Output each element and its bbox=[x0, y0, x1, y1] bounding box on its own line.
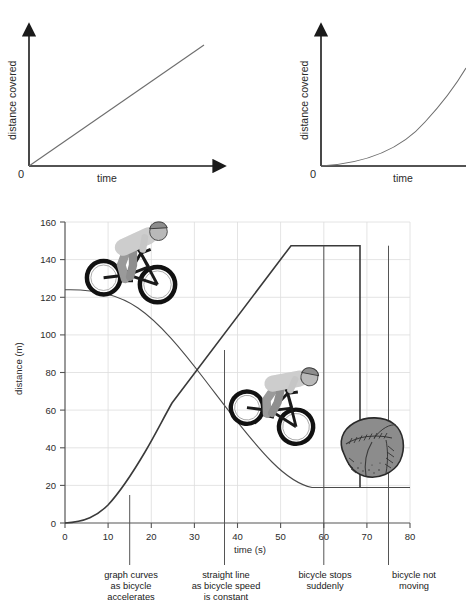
x-tick-labels: 0 10 20 30 40 50 60 70 80 bbox=[62, 531, 415, 542]
data-line bbox=[29, 45, 204, 166]
annotation-constant-speed: straight line as bicycle speed is consta… bbox=[192, 570, 261, 601]
chart-constant-speed: distance covered time 0 bbox=[0, 0, 240, 198]
x-axis-label: time bbox=[97, 172, 117, 184]
y-axis-label: distance covered bbox=[6, 60, 18, 140]
origin-label: 0 bbox=[18, 168, 24, 180]
bicycle-journey-svg: 0 20 40 60 80 100 120 140 160 distance (… bbox=[0, 200, 466, 601]
x-tick-40: 40 bbox=[232, 531, 243, 542]
y-tick-0: 0 bbox=[51, 518, 56, 529]
x-tick-50: 50 bbox=[275, 531, 286, 542]
y-axis-label: distance covered bbox=[298, 60, 310, 140]
x-axis-label: time bbox=[393, 172, 413, 184]
y-tick-100: 100 bbox=[40, 329, 56, 340]
x-tick-70: 70 bbox=[362, 531, 373, 542]
chart-bicycle-journey: 0 20 40 60 80 100 120 140 160 distance (… bbox=[0, 200, 466, 601]
y-tick-160: 160 bbox=[40, 217, 56, 228]
chart-accelerating: distance covered time 0 bbox=[290, 0, 466, 198]
x-tick-20: 20 bbox=[146, 531, 157, 542]
y-tick-60: 60 bbox=[45, 405, 56, 416]
data-curve bbox=[321, 68, 466, 166]
y-tick-marks bbox=[60, 222, 65, 523]
x-axis-title: time (s) bbox=[234, 544, 266, 555]
accelerating-svg: distance covered time 0 bbox=[290, 0, 466, 198]
ann3-line1: bicycle stops bbox=[298, 570, 352, 580]
ann1-line2: as bicycle bbox=[111, 581, 152, 591]
ann1-line1: graph curves bbox=[104, 570, 158, 580]
ann4-line2: moving bbox=[399, 581, 429, 591]
ann2-line1: straight line bbox=[202, 570, 250, 580]
x-tick-10: 10 bbox=[103, 531, 114, 542]
annotation-not-moving: bicycle not moving bbox=[392, 570, 436, 591]
ann4-line1: bicycle not bbox=[392, 570, 436, 580]
origin-label: 0 bbox=[310, 168, 316, 180]
annotation-accelerates: graph curves as bicycle accelerates bbox=[104, 570, 158, 601]
y-tick-120: 120 bbox=[40, 292, 56, 303]
x-tick-80: 80 bbox=[405, 531, 416, 542]
x-tick-marks bbox=[65, 523, 410, 528]
annotation-stops-suddenly: bicycle stops suddenly bbox=[298, 570, 352, 591]
ann2-line3: is constant bbox=[204, 592, 249, 601]
x-tick-0: 0 bbox=[62, 531, 67, 542]
ann1-line3: accelerates bbox=[107, 592, 155, 601]
y-axis-title: distance (m) bbox=[13, 342, 24, 395]
y-tick-80: 80 bbox=[45, 367, 56, 378]
y-tick-140: 140 bbox=[40, 254, 56, 265]
distance-time-figure: distance covered time 0 distance covered… bbox=[0, 0, 466, 601]
ann2-line2: as bicycle speed bbox=[192, 581, 261, 591]
y-tick-20: 20 bbox=[45, 480, 56, 491]
ann3-line2: suddenly bbox=[306, 581, 344, 591]
y-tick-labels: 0 20 40 60 80 100 120 140 160 bbox=[40, 217, 56, 529]
x-tick-30: 30 bbox=[189, 531, 200, 542]
constant-speed-svg: distance covered time 0 bbox=[0, 0, 240, 198]
y-tick-40: 40 bbox=[45, 442, 56, 453]
